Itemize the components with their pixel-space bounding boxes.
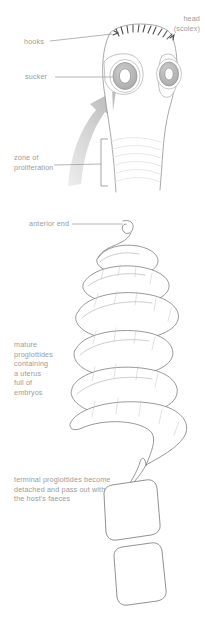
sucker-right <box>157 59 182 89</box>
sucker-left <box>110 60 140 93</box>
tapeworm-diagram-page: head (scolex) hooks sucker zone of proli… <box>0 0 205 617</box>
scolex <box>103 24 178 192</box>
label-anterior-end: anterior end <box>29 219 69 229</box>
label-terminal-proglottides: terminal proglottides become detached an… <box>14 475 111 504</box>
label-head-scolex: head (scolex) <box>174 14 200 33</box>
leader-hooks <box>50 34 112 41</box>
detached-proglottid-upper <box>104 480 160 540</box>
strobila-ribbon <box>70 220 187 492</box>
label-zone-of-proliferation: zone of proliferation <box>14 153 54 172</box>
detached-proglottid-lower <box>114 543 166 605</box>
leader-zone <box>54 164 101 165</box>
tapeworm-diagram-canvas <box>0 0 205 617</box>
zone-bracket <box>101 139 108 186</box>
label-mature-proglottides: mature proglottides containing a uterus … <box>14 340 53 398</box>
label-hooks: hooks <box>24 37 44 47</box>
label-sucker: sucker <box>25 72 47 82</box>
